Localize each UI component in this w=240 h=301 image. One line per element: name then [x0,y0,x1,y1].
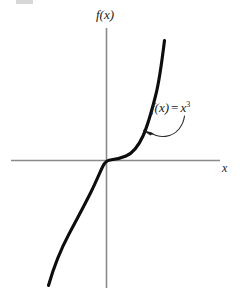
figure-container: f(x) x f(x)=x3 [0,0,240,301]
annotation-leader-line [150,116,185,137]
function-plot [0,0,240,301]
annotation-equals-sign: = [169,100,180,115]
annotation-function-name: f(x) [151,100,169,115]
curve-equation-annotation: f(x)=x3 [151,101,190,114]
annotation-exponent: 3 [186,100,190,109]
x-axis-label: x [222,162,227,174]
y-axis-label: f(x) [96,8,114,21]
